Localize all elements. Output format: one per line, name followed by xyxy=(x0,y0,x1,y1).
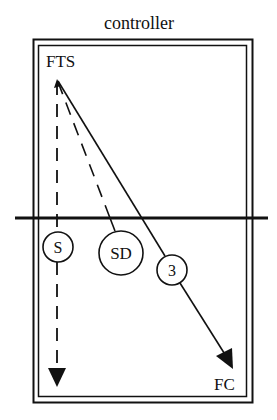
circle-sd: SD xyxy=(99,231,143,275)
controller-diagram: controller FTS S SD 3 FC xyxy=(0,0,277,420)
circle-sd-label: SD xyxy=(110,244,132,263)
diagram-title: controller xyxy=(104,13,174,33)
circle-s-label: S xyxy=(54,239,63,256)
fc-label: FC xyxy=(214,375,235,394)
circle-s: S xyxy=(43,232,73,262)
line-sd-connector xyxy=(110,218,115,231)
circle-3: 3 xyxy=(157,255,187,285)
solid-line-to-fc xyxy=(180,283,226,356)
down-arrow-icon xyxy=(48,368,66,387)
solid-line-to-3 xyxy=(58,81,165,256)
dashed-line-sd xyxy=(58,82,110,218)
inner-frame xyxy=(39,46,247,397)
fc-arrow-icon xyxy=(216,348,233,369)
circle-3-label: 3 xyxy=(168,262,176,279)
fts-label: FTS xyxy=(46,52,75,71)
